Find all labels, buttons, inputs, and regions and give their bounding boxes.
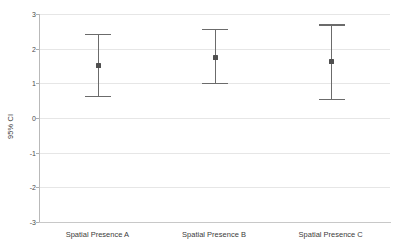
mean-marker <box>96 63 101 68</box>
error-bar-upper-cap <box>319 24 345 26</box>
y-tick-label: 3 <box>10 11 36 18</box>
error-bar-lower-cap <box>85 96 111 98</box>
y-tick-label: 1 <box>10 80 36 87</box>
y-tick-label: -1 <box>10 149 36 156</box>
error-bar-lower-cap <box>202 83 228 85</box>
y-axis-ticks: 3210-1-2-3 <box>0 0 36 252</box>
y-tick-label: -3 <box>10 219 36 226</box>
gridline <box>40 187 390 188</box>
error-bar-upper-cap <box>202 29 228 31</box>
y-tick-label: 0 <box>10 115 36 122</box>
x-axis-category-label: Spatial Presence C <box>299 231 363 239</box>
gridline <box>40 153 390 154</box>
gridline <box>40 118 390 119</box>
x-axis-line <box>39 222 391 223</box>
x-axis-category-label: Spatial Presence A <box>66 231 129 239</box>
y-tick-label: -2 <box>10 184 36 191</box>
error-bar-lower-cap <box>319 99 345 101</box>
mean-marker <box>213 55 218 60</box>
gridline <box>40 14 390 15</box>
error-bar-chart: 95% CI 3210-1-2-3 Spatial Presence ASpat… <box>0 0 395 252</box>
plot-area <box>39 14 389 222</box>
mean-marker <box>329 59 334 64</box>
error-bar-upper-cap <box>85 34 111 36</box>
x-axis-category-label: Spatial Presence B <box>182 231 246 239</box>
y-tick-label: 2 <box>10 45 36 52</box>
